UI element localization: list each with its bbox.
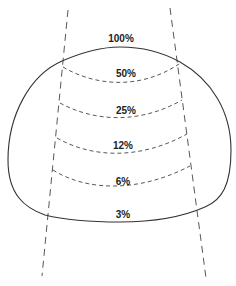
- beam-edge-right: [170, 8, 206, 278]
- contour-12-label: 12%: [113, 140, 133, 151]
- contour-25-label: 25%: [116, 105, 136, 116]
- exit-dose-label: 3%: [116, 209, 131, 220]
- contour-6-label: 6%: [116, 176, 131, 187]
- beam-edge-left: [42, 10, 68, 276]
- contour-50-label: 50%: [116, 68, 136, 79]
- surface-dose-label: 100%: [108, 33, 134, 44]
- beam-attenuation-diagram: 100% 50% 25% 12% 6% 3%: [0, 0, 236, 286]
